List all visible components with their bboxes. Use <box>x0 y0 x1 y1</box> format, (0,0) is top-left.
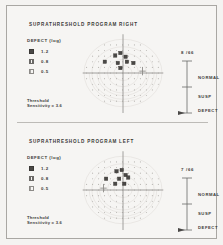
scale-label-defect: DEFECT <box>198 225 218 230</box>
light-square-icon <box>29 186 34 191</box>
visual-field-plot-right <box>79 28 167 118</box>
threshold-line-2: Sensitivity = 3.6 <box>27 220 62 225</box>
eye-label-left: LEFT <box>119 139 134 144</box>
filled-square-icon <box>29 166 34 171</box>
panel-left-eye: SUPRATHRESHOLD PROGRAM LEFT DEFECT (log)… <box>7 123 218 240</box>
legend-item: 0.8 <box>27 57 61 66</box>
plot-layer-left <box>83 151 164 230</box>
filled-square-icon <box>29 49 34 54</box>
scale-label-susp: SUSP <box>198 211 212 216</box>
legend-value: 0.8 <box>41 176 49 181</box>
legend-item: 1.2 <box>27 164 61 173</box>
legend-title-left: DEFECT (log) <box>27 155 61 160</box>
scale-bar-icon <box>177 176 197 232</box>
legend-right: DEFECT (log) 1.2 0.8 0.5 <box>27 38 61 76</box>
threshold-note-right: Threshold Sensitivity = 3.6 <box>27 98 62 108</box>
panel-right-eye: SUPRATHRESHOLD PROGRAM RIGHT DEFECT (log… <box>7 6 218 123</box>
defect-count-right: 8 /66 <box>181 50 194 55</box>
legend-left: DEFECT (log) 1.2 0.8 0.5 <box>27 155 61 193</box>
legend-value: 0.5 <box>41 186 49 191</box>
severity-scale-left: 7 /66 NORMAL SUSP DEFECT <box>177 167 219 233</box>
threshold-note-left: Threshold Sensitivity = 3.6 <box>27 215 62 225</box>
scale-label-normal: NORMAL <box>198 192 220 197</box>
hatched-square-icon <box>29 176 34 181</box>
scale-bar-icon <box>177 59 197 115</box>
legend-item: 1.2 <box>27 47 61 56</box>
defect-count-left: 7 /66 <box>181 167 194 172</box>
legend-value: 1.2 <box>41 49 49 54</box>
legend-value: 0.8 <box>41 59 49 64</box>
legend-item: 0.5 <box>27 67 61 76</box>
legend-title-right: DEFECT (log) <box>27 38 61 43</box>
program-title-right: SUPRATHRESHOLD PROGRAM <box>29 22 117 27</box>
legend-value: 1.2 <box>41 166 49 171</box>
plot-layer-right <box>83 34 164 113</box>
eye-label-right: RIGHT <box>119 22 138 27</box>
page-frame: SUPRATHRESHOLD PROGRAM RIGHT DEFECT (log… <box>6 5 217 239</box>
printout-sheet: SUPRATHRESHOLD PROGRAM RIGHT DEFECT (log… <box>0 0 223 245</box>
severity-scale-right: 8 /66 NORMAL SUSP DEFECT <box>177 50 219 116</box>
field-plot-svg <box>79 145 167 235</box>
scale-label-susp: SUSP <box>198 94 212 99</box>
light-square-icon <box>29 69 34 74</box>
legend-value: 0.5 <box>41 69 49 74</box>
visual-field-plot-left <box>79 145 167 235</box>
scale-label-defect: DEFECT <box>198 108 218 113</box>
legend-item: 0.8 <box>27 174 61 183</box>
legend-item: 0.5 <box>27 184 61 193</box>
program-title-left: SUPRATHRESHOLD PROGRAM <box>29 139 117 144</box>
hatched-square-icon <box>29 59 34 64</box>
threshold-line-2: Sensitivity = 3.6 <box>27 103 62 108</box>
field-plot-svg <box>79 28 167 118</box>
scale-label-normal: NORMAL <box>198 75 220 80</box>
